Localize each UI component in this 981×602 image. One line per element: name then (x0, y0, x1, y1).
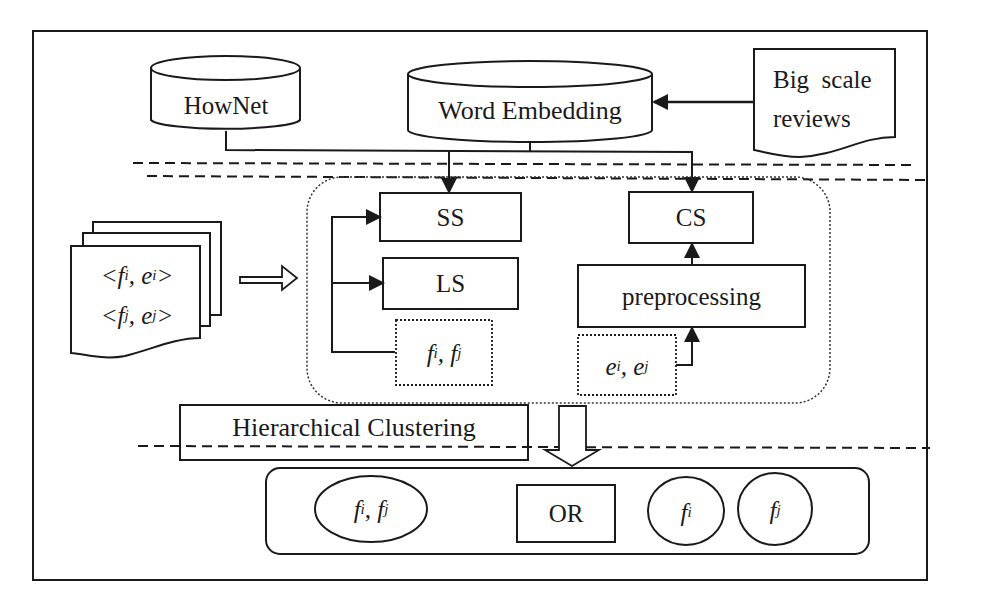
hierarchical-clustering-label-text: Hierarchical Clustering (232, 415, 475, 441)
input-hollow-arrow (240, 266, 297, 290)
dashed-separator-1 (133, 163, 917, 165)
input-pair-i-close: > (156, 263, 173, 288)
ls-label-text: LS (436, 271, 465, 296)
preprocessing-label-text: preprocessing (622, 284, 761, 309)
features-pair-label: fi, fj (396, 322, 492, 385)
feature-i-sub: i (687, 505, 691, 520)
features-pair-a: f (427, 341, 434, 366)
input-pair-j-f: f (118, 303, 125, 328)
input-pair-i-open: < (101, 263, 118, 288)
ss-label-text: SS (437, 205, 465, 230)
features-pair-b-sub: j (457, 346, 461, 361)
evaluations-pair-b: e (633, 354, 644, 379)
input-pair-j-e: e (141, 303, 152, 328)
evaluations-pair-a: e (605, 354, 616, 379)
merged-features-b-sub: j (384, 502, 388, 517)
or-label: OR (517, 485, 615, 542)
input-pair-j: <fj, ej> (74, 300, 200, 330)
input-pair-j-close: > (156, 303, 173, 328)
merged-features-a: f (354, 497, 361, 522)
big-scale-reviews-line2: reviews (773, 99, 872, 138)
preprocessing-label: preprocessing (578, 265, 805, 327)
input-pair-j-open: < (101, 303, 118, 328)
input-pair-i-sep: , (129, 263, 142, 288)
input-pair-j-sep: , (129, 303, 142, 328)
feature-j-label: fj (738, 478, 812, 542)
input-pair-i: <fi, ei> (74, 260, 200, 290)
feature-j-sub: j (776, 503, 780, 518)
merged-features-sep: , (365, 497, 378, 522)
input-pair-i-e: e (141, 263, 152, 288)
word-embedding-label-text: Word Embedding (438, 98, 622, 124)
input-pair-i-f: f (118, 263, 125, 288)
feature-i-label: fi (648, 480, 724, 544)
ss-label: SS (380, 193, 521, 241)
merged-features-label: fi, fj (315, 478, 427, 540)
hierarchical-clustering-label: Hierarchical Clustering (180, 405, 528, 451)
ls-label: LS (383, 258, 518, 309)
features-pair-sep: , (438, 341, 451, 366)
hownet-label: HowNet (151, 88, 301, 122)
hownet-label-text: HowNet (184, 93, 269, 118)
dashed-separator-2 (147, 176, 927, 180)
big-scale-reviews-label: Big scale reviews (773, 60, 872, 138)
big-scale-reviews-line1: Big scale (773, 60, 872, 99)
evaluations-pair-sep: , (621, 354, 634, 379)
evaluations-pair-label: ei, ej (578, 337, 676, 395)
cs-label: CS (629, 192, 753, 243)
feature-i-f: f (680, 500, 687, 525)
clustering-hollow-down-arrow (545, 406, 599, 466)
word-embedding-label: Word Embedding (408, 94, 652, 128)
evaluations-pair-b-sub: j (644, 359, 648, 374)
evaluations-to-preprocessing-connector (676, 340, 692, 365)
cs-label-text: CS (676, 205, 707, 230)
or-label-text: OR (549, 501, 584, 526)
